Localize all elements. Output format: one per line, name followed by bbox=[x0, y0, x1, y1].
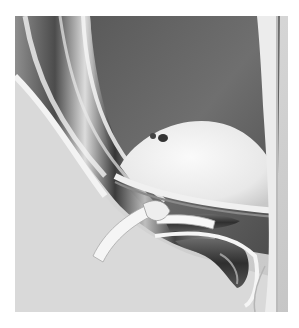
medical-illustration bbox=[15, 16, 288, 312]
dome-marker bbox=[158, 134, 168, 142]
illustration-svg bbox=[15, 16, 288, 312]
dome-marker bbox=[150, 133, 156, 139]
